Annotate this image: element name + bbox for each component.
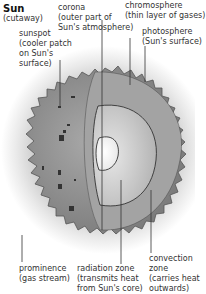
- label-convection-zone: convection zone (carries heat outwards): [149, 254, 200, 294]
- convection-zone-desc3: outwards): [149, 284, 200, 294]
- diagram-title: Sun (cutaway): [3, 3, 43, 24]
- label-chromosphere: chromosphere (thin layer of gases): [125, 1, 205, 21]
- sunspot-desc1: (cooler patch: [19, 39, 72, 49]
- photosphere-name: photosphere: [142, 27, 202, 37]
- label-sunspot: sunspot (cooler patch on Sun's surface): [19, 29, 72, 69]
- title-subtitle: (cutaway): [3, 14, 43, 24]
- radiation-zone-name: radiation zone: [77, 264, 143, 274]
- convection-zone-desc1: zone: [149, 264, 200, 274]
- label-photosphere: photosphere (Sun's surface): [142, 27, 202, 47]
- radiation-zone-desc2: from Sun's core): [77, 284, 143, 294]
- prominence-desc1: (gas stream): [19, 274, 70, 284]
- convection-zone-name: convection: [149, 254, 200, 264]
- radiation-zone-desc1: (transmits heat: [77, 274, 143, 284]
- convection-zone-desc2: (carries heat: [149, 274, 200, 284]
- corona-name: corona: [58, 3, 133, 13]
- sunspot-desc3: surface): [19, 59, 72, 69]
- label-radiation-zone: radiation zone (transmits heat from Sun'…: [77, 264, 143, 294]
- photosphere-desc1: (Sun's surface): [142, 37, 202, 47]
- prominence-name: prominence: [19, 264, 70, 274]
- corona-desc1: (outer part of: [58, 13, 133, 23]
- label-prominence: prominence (gas stream): [19, 264, 70, 284]
- sunspot-desc2: on Sun's: [19, 49, 72, 59]
- sunspot-name: sunspot: [19, 29, 72, 39]
- title-name: Sun: [3, 3, 43, 14]
- chromosphere-name: chromosphere: [125, 1, 205, 11]
- chromosphere-desc1: (thin layer of gases): [125, 11, 205, 21]
